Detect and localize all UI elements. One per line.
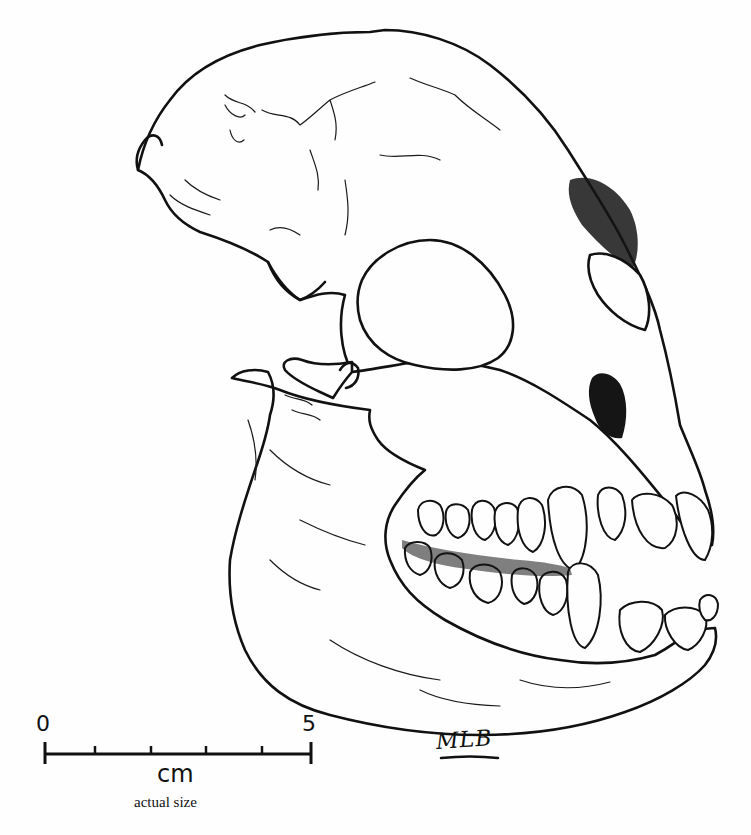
- artist-signature: MLB: [435, 725, 493, 754]
- skull-illustration: [0, 0, 751, 835]
- scale-start-label: 0: [36, 711, 50, 736]
- scale-caption: actual size: [134, 794, 197, 811]
- scale-unit-label: cm: [157, 760, 194, 788]
- signature-underline: [441, 757, 498, 759]
- scale-end-label: 5: [302, 711, 316, 736]
